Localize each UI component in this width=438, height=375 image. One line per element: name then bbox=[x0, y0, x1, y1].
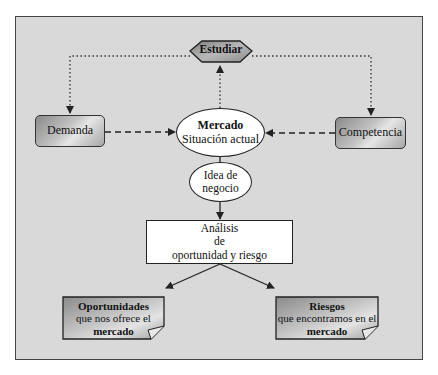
competencia-label: Competencia bbox=[339, 126, 402, 140]
riesgos-line3: mercado bbox=[307, 325, 348, 338]
demanda-node: Demanda bbox=[35, 115, 105, 147]
oportunidades-title: Oportunidades bbox=[78, 300, 149, 313]
riesgos-node: Riesgos que encontramos en el mercado bbox=[276, 298, 378, 339]
edge-estudiar-competencia bbox=[252, 56, 371, 115]
riesgos-title: Riesgos bbox=[309, 300, 344, 313]
mercado-node: Mercado Situación actual bbox=[176, 108, 265, 157]
analisis-line1: Análisis bbox=[201, 222, 239, 235]
oportunidades-node: Oportunidades que nos ofrece el mercado bbox=[63, 298, 164, 339]
demanda-label: Demanda bbox=[47, 124, 93, 138]
idea-node: Idea de negocio bbox=[189, 162, 252, 202]
estudiar-label: Estudiar bbox=[200, 43, 243, 55]
mercado-subtitle: Situación actual bbox=[182, 133, 259, 147]
edge-analisis-oportunidades bbox=[166, 264, 220, 288]
analisis-line3: oportunidad y riesgo bbox=[172, 249, 267, 262]
analisis-node: Análisis de oportunidad y riesgo bbox=[146, 220, 293, 264]
idea-line1: Idea de bbox=[204, 169, 238, 182]
mercado-title: Mercado bbox=[198, 119, 244, 133]
riesgos-line2: que encontramos en el bbox=[278, 312, 377, 325]
analisis-line2: de bbox=[214, 235, 225, 248]
idea-line2: negocio bbox=[202, 182, 238, 195]
oportunidades-line3: mercado bbox=[93, 325, 134, 338]
edge-estudiar-demanda bbox=[70, 56, 190, 113]
competencia-node: Competencia bbox=[335, 117, 406, 149]
oportunidades-line2: que nos ofrece el bbox=[76, 312, 151, 325]
estudiar-node: Estudiar bbox=[190, 43, 252, 55]
edge-analisis-riesgos bbox=[220, 264, 274, 288]
